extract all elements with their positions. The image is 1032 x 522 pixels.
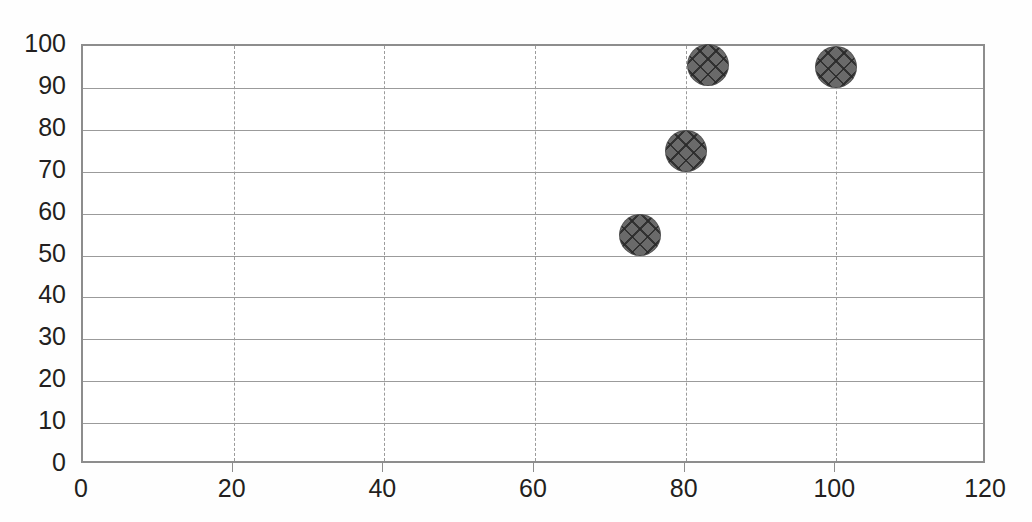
x-tick-label-60: 60 [519, 474, 547, 502]
x-tick-mark-60 [533, 463, 534, 472]
gridline-y-10 [83, 423, 983, 424]
x-tick-label-40: 40 [368, 474, 396, 502]
gridline-y-80 [83, 130, 983, 131]
x-tick-label-100: 100 [813, 474, 855, 502]
y-tick-label-0: 0 [0, 450, 66, 475]
gridline-x-100 [836, 46, 837, 461]
x-tick-mark-40 [382, 463, 383, 472]
y-tick-label-100: 100 [0, 31, 66, 56]
x-tick-mark-20 [232, 463, 233, 472]
y-tick-label-30: 30 [0, 324, 66, 349]
gridline-y-60 [83, 214, 983, 215]
y-tick-label-90: 90 [0, 73, 66, 98]
y-tick-label-60: 60 [0, 199, 66, 224]
x-tick-label-0: 0 [74, 474, 88, 502]
gridline-x-80 [686, 46, 687, 461]
gridline-y-20 [83, 381, 983, 382]
data-point [815, 46, 857, 88]
data-point [665, 130, 707, 172]
gridline-y-70 [83, 172, 983, 173]
gridline-y-90 [83, 88, 983, 89]
data-point [619, 214, 661, 256]
gridline-y-40 [83, 297, 983, 298]
y-tick-label-80: 80 [0, 115, 66, 140]
gridline-x-60 [535, 46, 536, 461]
gridline-y-30 [83, 339, 983, 340]
x-tick-mark-100 [834, 463, 835, 472]
y-tick-label-20: 20 [0, 366, 66, 391]
y-tick-label-50: 50 [0, 241, 66, 266]
gridline-y-50 [83, 256, 983, 257]
data-point [687, 44, 729, 86]
x-tick-mark-80 [684, 463, 685, 472]
y-tick-label-40: 40 [0, 282, 66, 307]
y-tick-label-10: 10 [0, 408, 66, 433]
gridline-x-40 [384, 46, 385, 461]
x-tick-label-80: 80 [670, 474, 698, 502]
x-tick-label-120: 120 [964, 474, 1006, 502]
plot-area [81, 44, 985, 463]
x-tick-label-20: 20 [218, 474, 246, 502]
gridline-x-20 [234, 46, 235, 461]
y-tick-label-70: 70 [0, 157, 66, 182]
scatter-chart: 0102030405060708090100 020406080100120 [0, 0, 1032, 522]
